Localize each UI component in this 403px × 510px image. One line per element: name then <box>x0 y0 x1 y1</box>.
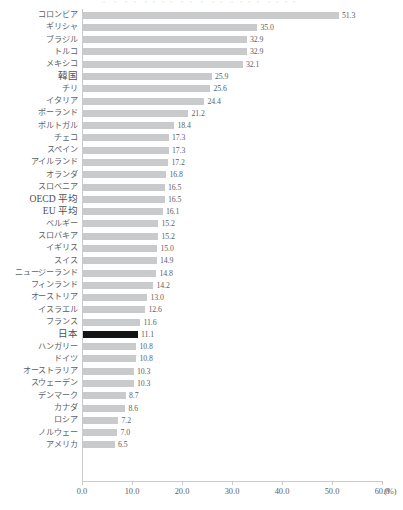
value-label: 10.8 <box>140 342 153 351</box>
x-axis-tick-label: 20.0 <box>175 487 190 496</box>
y-axis-line <box>82 9 83 481</box>
bar-row: アイルランド17.2 <box>0 156 403 168</box>
value-label: 11.6 <box>144 318 157 327</box>
bar <box>82 110 188 117</box>
bar <box>82 171 166 178</box>
value-label: 13.0 <box>151 293 164 302</box>
bar-container: 32.9 <box>82 34 403 46</box>
clipped-header-text: ・ ・ ・・ ・・・・ ・・ ・ ・・ ・・・・ ・・・・ <box>100 0 400 5</box>
value-label: 21.2 <box>192 109 205 118</box>
bar-container: 17.3 <box>82 132 403 144</box>
bar-row: 日本11.1 <box>0 328 403 340</box>
category-label: カナダ <box>0 402 78 414</box>
x-axis-tick <box>282 481 283 485</box>
bar <box>82 405 125 412</box>
category-label: ニュージーランド <box>0 267 78 279</box>
bar-container: 32.9 <box>82 46 403 58</box>
value-label: 16.1 <box>166 207 179 216</box>
x-axis-tick <box>132 481 133 485</box>
value-label: 25.9 <box>215 72 228 81</box>
category-label: スイス <box>0 255 78 267</box>
bar <box>82 196 165 203</box>
bar-row: ポルトガル18.4 <box>0 120 403 132</box>
bar-row: ドイツ10.8 <box>0 353 403 365</box>
bar <box>82 233 158 240</box>
bar-row: ノルウェー7.0 <box>0 427 403 439</box>
value-label: 7.2 <box>122 416 131 425</box>
category-label: チェコ <box>0 132 78 144</box>
bar-row: スウェーデン10.3 <box>0 377 403 389</box>
bar-container: 14.8 <box>82 267 403 279</box>
bar-row: オーストラリア10.3 <box>0 365 403 377</box>
bar-row: イギリス15.0 <box>0 242 403 254</box>
category-label: アメリカ <box>0 439 78 451</box>
category-label: コロンビア <box>0 9 78 21</box>
bar <box>82 98 204 105</box>
value-label: 6.5 <box>118 440 127 449</box>
category-label: ハンガリー <box>0 341 78 353</box>
value-label: 14.2 <box>157 281 170 290</box>
bar-container: 6.5 <box>82 439 403 451</box>
bar-row: OECD 平均16.5 <box>0 193 403 205</box>
bar-row: メキシコ32.1 <box>0 58 403 70</box>
bar-container: 10.3 <box>82 377 403 389</box>
bar-container: 10.8 <box>82 353 403 365</box>
value-label: 15.2 <box>162 232 175 241</box>
bar-row: ロシア7.2 <box>0 414 403 426</box>
bar <box>82 208 163 215</box>
plot-area: コロンビア51.3ギリシャ35.0ブラジル32.9トルコ32.9メキシコ32.1… <box>0 9 403 481</box>
bar-row: ギリシャ35.0 <box>0 21 403 33</box>
bar-container: 21.2 <box>82 107 403 119</box>
bar-container: 10.3 <box>82 365 403 377</box>
bar-row: アメリカ6.5 <box>0 439 403 451</box>
bar-row: イスラエル12.6 <box>0 304 403 316</box>
bar-container: 32.1 <box>82 58 403 70</box>
bar-row: フランス11.6 <box>0 316 403 328</box>
bar-row: ハンガリー10.8 <box>0 341 403 353</box>
bar <box>82 24 257 31</box>
bar-container: 12.6 <box>82 304 403 316</box>
category-label: スロベニア <box>0 181 78 193</box>
bar <box>82 257 157 264</box>
bar-highlighted <box>82 331 138 338</box>
bar <box>82 306 145 313</box>
bar-row: ニュージーランド14.8 <box>0 267 403 279</box>
category-label: ノルウェー <box>0 427 78 439</box>
bar <box>82 48 247 55</box>
bar-row: オーストリア13.0 <box>0 291 403 303</box>
bar-row: チリ25.6 <box>0 83 403 95</box>
category-label: チリ <box>0 83 78 95</box>
value-label: 7.0 <box>121 428 130 437</box>
bar <box>82 12 339 19</box>
bar <box>82 159 168 166</box>
bar <box>82 36 247 43</box>
bar <box>82 282 153 289</box>
category-label: スロバキア <box>0 230 78 242</box>
bar <box>82 343 136 350</box>
bar-container: 8.7 <box>82 390 403 402</box>
bar <box>82 417 118 424</box>
bar-container: 11.6 <box>82 316 403 328</box>
bar-container: 17.3 <box>82 144 403 156</box>
category-label: 日本 <box>0 328 78 340</box>
bar-container: 10.8 <box>82 341 403 353</box>
bar <box>82 147 169 154</box>
bar-row: オランダ16.8 <box>0 169 403 181</box>
category-label: イタリア <box>0 95 78 107</box>
bar-row: ベルギー15.2 <box>0 218 403 230</box>
bar-row: カナダ8.6 <box>0 402 403 414</box>
value-label: 12.6 <box>149 305 162 314</box>
bar-row: スロバキア15.2 <box>0 230 403 242</box>
bar-container: 25.9 <box>82 70 403 82</box>
value-label: 35.0 <box>261 23 274 32</box>
category-label: デンマーク <box>0 390 78 402</box>
category-label: フィンランド <box>0 279 78 291</box>
value-label: 17.3 <box>172 146 185 155</box>
x-axis-tick-label: 0.0 <box>77 487 87 496</box>
value-label: 10.3 <box>137 367 150 376</box>
value-label: 17.3 <box>172 133 185 142</box>
bar-container: 14.9 <box>82 255 403 267</box>
value-label: 32.9 <box>250 35 263 44</box>
bar-row: 韓国25.9 <box>0 70 403 82</box>
bar-container: 35.0 <box>82 21 403 33</box>
